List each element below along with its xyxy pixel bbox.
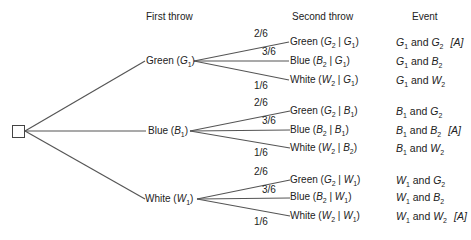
- math-symbol: B1: [396, 142, 407, 154]
- probability-label: 2/6: [254, 28, 268, 40]
- second-throw-label: Blue (B2 | W1): [290, 191, 352, 203]
- math-symbol: W1: [177, 193, 190, 204]
- second-throw-label: Green (G2 | B1): [290, 105, 358, 117]
- second-throw-label: Green (G2 | W1): [290, 174, 360, 186]
- event-tag: [A]: [454, 210, 467, 222]
- math-symbol: G2: [431, 36, 443, 48]
- math-symbol: B2: [316, 191, 327, 202]
- math-symbol: G1: [396, 55, 408, 67]
- math-symbol: B1: [344, 105, 355, 116]
- second-throw-label: Green (G2 | G1): [290, 36, 359, 48]
- first-throw-label-white: White (W1): [145, 193, 193, 205]
- math-symbol: B2: [433, 191, 444, 203]
- math-symbol: W2: [430, 142, 444, 154]
- math-symbol: W1: [396, 174, 410, 186]
- probability-label: 3/6: [262, 46, 276, 58]
- event-tag: [A]: [451, 36, 464, 48]
- event-label: G1 and W2: [396, 74, 445, 86]
- math-symbol: B2: [316, 124, 327, 135]
- probability-label: 2/6: [254, 166, 268, 178]
- math-symbol: B2: [431, 55, 442, 67]
- math-symbol: G1: [335, 55, 347, 66]
- math-symbol: W1: [396, 191, 410, 203]
- math-symbol: G2: [433, 174, 445, 186]
- event-label: G1 and B2: [396, 55, 442, 67]
- math-symbol: G1: [343, 74, 355, 85]
- math-symbol: G2: [324, 174, 336, 185]
- event-label: W1 and W2[A]: [396, 210, 467, 222]
- math-symbol: G2: [324, 36, 336, 47]
- math-symbol: W1: [396, 210, 410, 222]
- math-symbol: W2: [431, 74, 445, 86]
- math-symbol: B1: [396, 124, 407, 136]
- math-symbol: G2: [324, 105, 336, 116]
- second-throw-label: Blue (B2 | G1): [290, 55, 350, 67]
- first-throw-label-green: Green (G1): [146, 55, 195, 67]
- math-symbol: W1: [343, 210, 356, 221]
- event-tag: [A]: [448, 124, 461, 136]
- math-symbol: B1: [335, 124, 346, 135]
- math-symbol: W1: [344, 174, 357, 185]
- math-symbol: W2: [322, 142, 335, 153]
- probability-label: 1/6: [254, 80, 268, 92]
- root-node: [13, 126, 25, 138]
- header-first-throw: First throw: [146, 11, 193, 23]
- math-symbol: B2: [430, 124, 441, 136]
- event-label: G1 and G2[A]: [396, 36, 463, 48]
- math-symbol: G1: [180, 55, 192, 66]
- probability-label: 3/6: [262, 184, 276, 196]
- math-symbol: G1: [344, 36, 356, 47]
- second-throw-label: White (W2 | B2): [290, 142, 357, 154]
- math-symbol: B2: [316, 55, 327, 66]
- math-symbol: B1: [174, 125, 185, 136]
- header-second-throw: Second throw: [292, 11, 353, 23]
- math-symbol: B2: [343, 142, 354, 153]
- event-label: W1 and B2: [396, 191, 444, 203]
- second-throw-label: Blue (B2 | B1): [290, 124, 349, 136]
- math-symbol: B1: [396, 105, 407, 117]
- probability-label: 3/6: [262, 115, 276, 127]
- probability-label: 1/6: [254, 216, 268, 228]
- event-label: B1 and G2: [396, 105, 442, 117]
- math-symbol: W2: [322, 74, 335, 85]
- header-event: Event: [412, 11, 438, 23]
- event-label: W1 and G2: [396, 174, 445, 186]
- math-symbol: G2: [430, 105, 442, 117]
- second-throw-label: White (W2 | W1): [290, 210, 360, 222]
- math-symbol: G1: [396, 74, 408, 86]
- first-throw-label-blue: Blue (B1): [148, 125, 188, 137]
- probability-label: 1/6: [254, 147, 268, 159]
- event-label: B1 and B2[A]: [396, 124, 461, 136]
- event-label: B1 and W2: [396, 142, 444, 154]
- math-symbol: W2: [433, 210, 447, 222]
- math-symbol: W2: [322, 210, 335, 221]
- math-symbol: W1: [335, 191, 348, 202]
- probability-label: 2/6: [254, 97, 268, 109]
- math-symbol: G1: [396, 36, 408, 48]
- second-throw-label: White (W2 | G1): [290, 74, 358, 86]
